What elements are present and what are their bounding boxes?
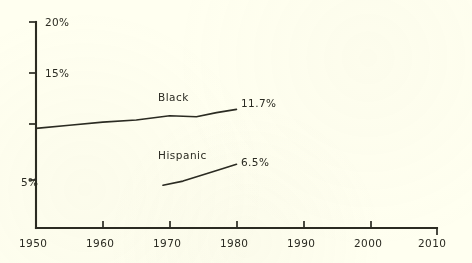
series-value-black: 11.7% bbox=[241, 97, 276, 109]
x-axis-label-1980: 1980 bbox=[220, 237, 248, 249]
series-label-hispanic: Hispanic bbox=[158, 149, 207, 161]
line-chart: 20% 15% 5% 1950 1960 1970 1980 1990 2000… bbox=[0, 0, 472, 263]
x-axis-label-1990: 1990 bbox=[287, 237, 315, 249]
series-label-black: Black bbox=[158, 91, 189, 103]
series-value-hispanic: 6.5% bbox=[241, 156, 269, 168]
y-axis-label-20: 20% bbox=[45, 16, 69, 28]
x-axis-label-2000: 2000 bbox=[354, 237, 382, 249]
x-axis-label-1960: 1960 bbox=[86, 237, 114, 249]
x-axis-label-1950: 1950 bbox=[19, 237, 47, 249]
y-axis-label-5: 5% bbox=[21, 176, 38, 188]
chart-canvas: 20% 15% 5% 1950 1960 1970 1980 1990 2000… bbox=[0, 0, 472, 263]
series-line-hispanic bbox=[163, 164, 237, 185]
y-axis-label-15: 15% bbox=[45, 67, 69, 79]
x-axis-label-2010: 2010 bbox=[418, 237, 446, 249]
series-line-black bbox=[36, 109, 237, 128]
x-axis-label-1970: 1970 bbox=[153, 237, 181, 249]
